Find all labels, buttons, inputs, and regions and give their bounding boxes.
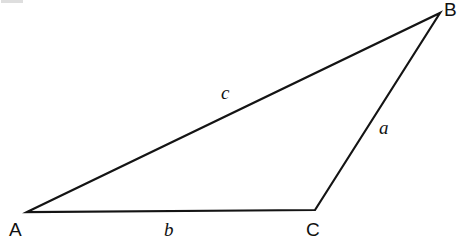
vertex-label-c: C — [306, 220, 320, 239]
side-label-b: b — [164, 220, 174, 239]
triangle-diagram: A B C a b c — [0, 0, 461, 247]
triangle-outline — [27, 13, 440, 212]
vertex-label-a: A — [9, 220, 22, 239]
triangle-shape — [0, 0, 461, 247]
side-label-a: a — [379, 118, 389, 137]
side-label-c: c — [221, 83, 229, 102]
vertex-label-b: B — [444, 0, 457, 19]
